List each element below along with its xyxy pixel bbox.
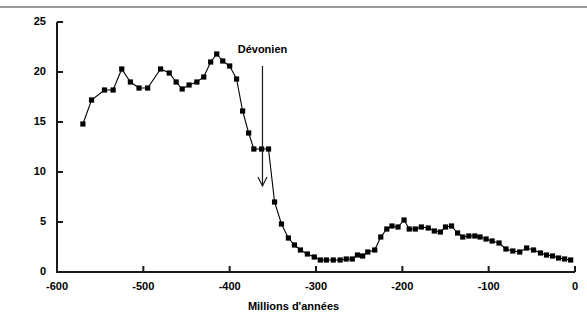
y-tick-labels: 0510152025 (0, 0, 52, 322)
x-tick-label: -400 (200, 280, 260, 292)
y-tick-label: 10 (6, 165, 46, 177)
axes (57, 22, 575, 272)
x-tick-label: -300 (286, 280, 346, 292)
y-tick-label: 5 (6, 215, 46, 227)
annotation-arrow (258, 66, 267, 186)
y-tick-label: 25 (6, 15, 46, 27)
figure: RCO2 Millions d'années 0510152025 Dévoni… (0, 0, 587, 322)
x-axis-label: Millions d'années (0, 300, 587, 312)
x-tick-label: -600 (27, 280, 87, 292)
y-tick-label: 15 (6, 115, 46, 127)
chart-canvas (0, 0, 587, 322)
y-tick-label: 0 (6, 265, 46, 277)
annotation-label: Dévonien (238, 43, 288, 55)
x-tick-label: -500 (113, 280, 173, 292)
y-tick-label: 20 (6, 65, 46, 77)
x-tick-label: -200 (372, 280, 432, 292)
x-tick-label: -100 (459, 280, 519, 292)
x-tick-label: 0 (545, 280, 587, 292)
data-series (80, 51, 573, 262)
